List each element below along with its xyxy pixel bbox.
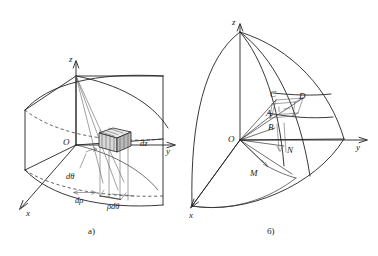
cylinder-top-front-arc	[76, 76, 168, 128]
panel-cylindrical: z y x O dz dθ dρ ρdθ а)	[20, 54, 176, 236]
sphere-base-wedge-right	[240, 140, 292, 174]
volume-element-cylindrical	[99, 128, 131, 152]
cylinder-bottom-outer-arc	[25, 170, 163, 206]
cylinder-top-edge-left	[25, 76, 76, 110]
axis-label-y-b: y	[355, 142, 360, 152]
point-label-B: B	[268, 122, 274, 132]
sphere-drop-element-right	[284, 123, 286, 152]
sphere-ray-to-M	[240, 140, 267, 166]
label-dz: dz	[140, 138, 148, 148]
axis-label-x-a: x	[25, 208, 30, 218]
axis-x-line-b	[192, 140, 240, 206]
origin-label-a: O	[63, 137, 70, 147]
label-rho-d-theta: ρdθ	[106, 201, 120, 211]
axis-label-z-b: z	[231, 17, 236, 27]
sphere-equator-arc	[192, 139, 344, 208]
axis-label-z-a: z	[68, 54, 73, 64]
figure-root: z y x O dz dθ dρ ρdθ а)	[0, 0, 378, 256]
sphere-ray-to-D	[240, 98, 303, 140]
point-label-A: A	[265, 108, 272, 118]
axis-label-x-b: x	[188, 210, 193, 220]
coordinate-volume-element-figure: z y x O dz dθ dρ ρdθ а)	[0, 0, 378, 256]
panel-spherical: z y x O C D A B N M б)	[188, 17, 368, 236]
sphere-meridian-xz	[192, 32, 240, 206]
origin-label-b: O	[228, 134, 235, 144]
label-d-theta: dθ	[66, 171, 74, 181]
cylinder-base-radius-x	[25, 145, 76, 170]
d-theta-leader	[80, 154, 86, 168]
sphere-base-wedge-arc	[267, 166, 296, 178]
cylinder-base-element-edge-b	[121, 193, 126, 200]
caption-panel-b: б)	[267, 226, 275, 236]
point-label-N: N	[286, 145, 294, 155]
sphere-element-inner-bottom	[270, 116, 293, 118]
point-label-C: C	[270, 89, 277, 99]
cylinder-base-element-patch	[100, 196, 121, 200]
label-d-rho: dρ	[75, 195, 83, 205]
point-label-M: M	[249, 168, 258, 178]
cylinder-ray-apex-1	[76, 76, 103, 183]
cylinder-base-element-edge-a	[100, 190, 104, 196]
axis-label-y-a: y	[165, 146, 170, 156]
point-label-D: D	[298, 91, 306, 101]
sphere-ray-to-N	[240, 140, 284, 146]
caption-panel-a: а)	[88, 226, 95, 236]
sphere-base-wedge-outer-edge	[192, 178, 296, 208]
